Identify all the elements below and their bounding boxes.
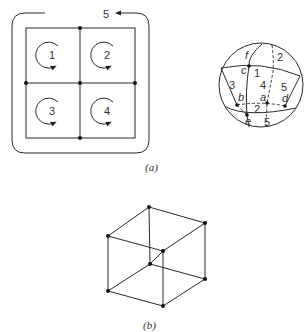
cube-edge <box>150 264 205 279</box>
caption-a: (a) <box>145 161 158 174</box>
meridian-back <box>266 45 273 127</box>
cube-vertex <box>203 277 207 281</box>
face-label-2: 2 <box>104 49 110 61</box>
sphere-label-z: 2 <box>254 103 260 115</box>
sphere-label-b: b <box>238 91 244 103</box>
sphere-label-2: 2 <box>277 51 283 63</box>
vertex <box>24 81 28 85</box>
caption-b: (b) <box>143 319 156 332</box>
sphere-label-e: e <box>245 115 251 127</box>
cube-edge <box>108 207 149 236</box>
diagram-canvas: 1 2 3 4 5 f 2 c 1 3 4 5 b <box>0 0 308 332</box>
cube-vertex <box>148 262 152 266</box>
cube-edge <box>163 279 205 306</box>
cube-edge <box>108 264 150 291</box>
upper-latitude <box>221 65 300 76</box>
vertex-c <box>247 64 251 68</box>
vertex-b <box>235 103 239 107</box>
sphere-label-1: 1 <box>254 67 260 79</box>
vertex <box>78 81 82 85</box>
cube-vertex <box>203 221 207 225</box>
vertex-d <box>283 104 287 108</box>
cube-edge <box>108 291 163 306</box>
sphere-label-f: f <box>245 49 249 61</box>
cube-vertex <box>147 205 151 209</box>
cube-edge <box>149 207 150 264</box>
lower-latitude-front <box>226 107 296 113</box>
cube-vertex <box>161 304 165 308</box>
sphere-label-c: c <box>241 64 247 76</box>
cube-vertex <box>106 289 110 293</box>
cube-vertex <box>161 249 165 253</box>
vertex <box>78 136 82 140</box>
vertex <box>133 81 137 85</box>
cube-graph <box>106 205 207 308</box>
cube-edge <box>149 207 205 223</box>
cube-edge <box>108 236 163 251</box>
face-label-3: 3 <box>49 105 55 117</box>
face-label-4: 4 <box>104 105 110 117</box>
sphere-label-4: 4 <box>260 79 266 91</box>
sphere-label-a: a <box>260 91 266 103</box>
planar-graph: 1 2 3 4 5 <box>12 8 149 153</box>
cube-edge <box>150 251 163 264</box>
sphere-label-5-bottom: 5 <box>264 116 270 128</box>
face-label-5: 5 <box>103 8 109 20</box>
sphere-graph: f 2 c 1 3 4 5 b a d 2 e 5 <box>219 43 303 128</box>
cube-edge <box>163 223 205 251</box>
vertex <box>78 26 82 30</box>
edge-b-e <box>237 105 247 115</box>
sphere-label-3: 3 <box>229 79 235 91</box>
cube-vertex <box>106 234 110 238</box>
lower-latitude-back <box>237 103 285 106</box>
face-label-1: 1 <box>49 49 55 61</box>
sphere-label-d: d <box>282 92 289 104</box>
